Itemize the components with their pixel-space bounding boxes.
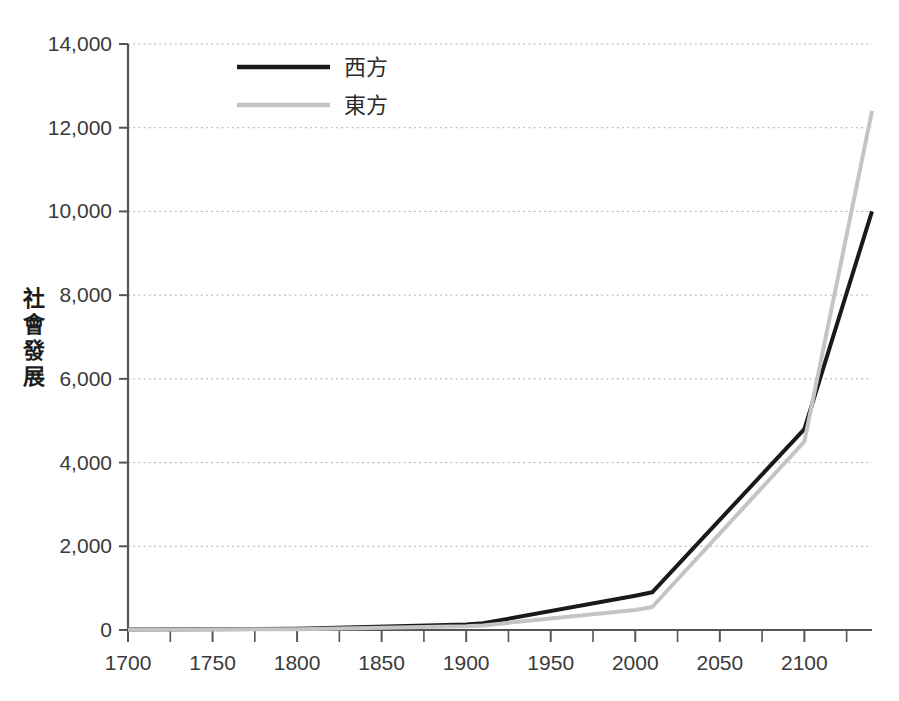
x-tick-label: 1850 — [358, 651, 405, 674]
x-tick-label: 1900 — [443, 651, 490, 674]
y-tick-label: 4,000 — [59, 451, 112, 474]
y-axis-title: 社會發展 — [22, 286, 46, 389]
y-tick-label: 8,000 — [59, 283, 112, 306]
chart-container: 02,0004,0006,0008,00010,00012,00014,000 … — [0, 0, 899, 701]
y-tick-label: 14,000 — [48, 32, 112, 55]
y-tick-label: 6,000 — [59, 367, 112, 390]
x-tick-label: 1800 — [274, 651, 321, 674]
legend-label-東方: 東方 — [344, 93, 388, 118]
y-axis-title-char: 社 — [23, 286, 45, 311]
x-tick-label: 2050 — [696, 651, 743, 674]
x-tick-label: 1950 — [527, 651, 574, 674]
y-axis-title-char: 會 — [23, 312, 46, 337]
x-tick-label: 1750 — [189, 651, 236, 674]
y-tick-label: 10,000 — [48, 199, 112, 222]
legend-label-西方: 西方 — [344, 55, 388, 80]
chart-background — [0, 0, 899, 701]
x-tick-label: 2000 — [612, 651, 659, 674]
x-axis-tick-labels: 170017501800185019001950200020502100 — [105, 651, 828, 674]
y-tick-label: 12,000 — [48, 116, 112, 139]
line-chart: 02,0004,0006,0008,00010,00012,00014,000 … — [0, 0, 899, 701]
x-tick-label: 2100 — [781, 651, 828, 674]
x-tick-label: 1700 — [105, 651, 152, 674]
y-tick-label: 0 — [100, 618, 112, 641]
y-axis-title-char: 展 — [23, 364, 45, 389]
y-axis-title-char: 發 — [22, 338, 45, 363]
y-tick-label: 2,000 — [59, 534, 112, 557]
